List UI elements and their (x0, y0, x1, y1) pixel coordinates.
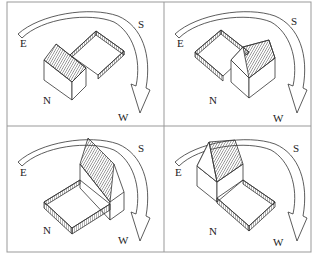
label-south: S (293, 142, 299, 154)
panel-top-right: E S N W (175, 12, 307, 124)
label-west: W (118, 111, 129, 123)
label-south: S (138, 142, 144, 154)
label-north: N (209, 225, 217, 237)
label-east: E (177, 37, 184, 49)
label-east: E (175, 166, 182, 178)
label-north: N (43, 224, 51, 236)
panel-top-left: E S N W (18, 12, 150, 123)
label-south: S (138, 18, 144, 30)
house-and-yard (197, 140, 275, 231)
label-west: W (273, 236, 284, 248)
label-west: W (273, 112, 284, 124)
diagram-frame: E S N W E S N W (0, 0, 312, 256)
diagram-svg: E S N W E S N W (0, 0, 312, 256)
house-and-yard (195, 30, 275, 98)
sun-path-arrow-icon (18, 12, 150, 113)
panel-bottom-right: E S N W (175, 140, 307, 248)
label-south: S (291, 15, 297, 27)
panel-bottom-left: E S N W (18, 138, 150, 246)
sun-path-arrow-icon (175, 140, 307, 241)
house-and-yard (44, 31, 124, 100)
house-and-yard (44, 138, 124, 234)
label-west: W (118, 234, 129, 246)
label-east: E (20, 37, 27, 49)
label-east: E (20, 166, 27, 178)
label-north: N (209, 94, 217, 106)
label-north: N (43, 94, 51, 106)
